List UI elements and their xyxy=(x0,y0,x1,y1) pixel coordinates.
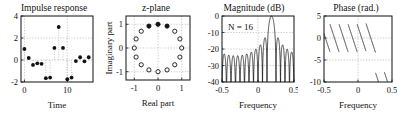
zero-marker xyxy=(178,55,182,59)
data-point xyxy=(83,59,87,63)
z-plane-chart: z-plane -101 -101 Real part Imaginary pa… xyxy=(100,0,198,116)
phase-trace xyxy=(324,34,330,52)
tick-label: -30 xyxy=(208,61,219,71)
panel-impulse-response: Impulse response -2024 010 Time xyxy=(0,0,100,116)
impulse-response-gridlines xyxy=(21,16,93,82)
data-point xyxy=(70,76,74,80)
zero-marker xyxy=(134,55,138,59)
zero-marker-highlighted xyxy=(165,24,169,28)
data-point xyxy=(61,46,65,50)
phase-title: Phase (rad.) xyxy=(333,3,378,14)
tick-label: 2 xyxy=(14,33,18,43)
panel-z-plane: z-plane -101 -101 Real part Imaginary pa… xyxy=(100,0,198,116)
tick-label: -1 xyxy=(131,83,138,93)
tick-label: 0 xyxy=(119,43,123,53)
z-plane-y-ticklabels: -101 xyxy=(116,19,129,76)
impulse-response-axes-frame xyxy=(21,16,93,82)
tick-label: 0 xyxy=(14,55,18,65)
phase-chart: Phase (rad.) -10-505 -0.500.5 Frequency xyxy=(298,0,397,116)
data-point xyxy=(44,76,48,80)
magnitude-xlabel: Frequency xyxy=(239,100,277,110)
data-point xyxy=(23,47,27,51)
tick-label: -5 xyxy=(314,55,321,65)
zero-marker xyxy=(173,29,177,33)
impulse-response-title: Impulse response xyxy=(21,3,87,13)
phase-trace xyxy=(366,23,376,52)
zero-marker-highlighted xyxy=(147,24,151,28)
tick-label: -2 xyxy=(11,77,18,87)
tick-label: 1 xyxy=(119,19,123,29)
zero-marker xyxy=(134,37,138,41)
panel-magnitude: Magnitude (dB) N = 16 -40-30-20-100 -0.5… xyxy=(198,0,298,116)
panel-phase: Phase (rad.) -10-505 -0.500.5 Frequency xyxy=(298,0,397,116)
tick-label: 1 xyxy=(180,83,184,93)
tick-label: 0 xyxy=(156,83,160,93)
data-point xyxy=(53,46,57,50)
tick-label: -0.5 xyxy=(317,85,330,95)
zero-marker xyxy=(180,46,184,50)
impulse-response-datapoints xyxy=(23,25,91,81)
zero-marker xyxy=(147,68,151,72)
z-plane-xlabel: Real part xyxy=(142,98,175,108)
zero-marker xyxy=(139,29,143,33)
zero-marker xyxy=(173,63,177,67)
z-plane-title: z-plane xyxy=(142,3,170,13)
phase-xlabel: Frequency xyxy=(339,100,377,110)
data-point xyxy=(40,62,44,66)
tick-label: -20 xyxy=(208,44,219,54)
zero-marker xyxy=(178,37,182,41)
data-point xyxy=(74,59,78,63)
tick-label: -1 xyxy=(116,67,123,77)
tick-label: 0 xyxy=(22,85,26,95)
tick-label: 0 xyxy=(317,33,321,43)
data-point xyxy=(87,55,91,59)
magnitude-annotation-N: N = 16 xyxy=(228,22,254,32)
figure-panel-row: Impulse response -2024 010 Time z-plane … xyxy=(0,0,397,116)
data-point xyxy=(48,76,52,80)
zero-marker-highlighted xyxy=(156,22,160,26)
phase-response-curve xyxy=(324,23,388,82)
phase-trace xyxy=(330,24,339,52)
tick-label: -0.5 xyxy=(215,85,228,95)
data-point xyxy=(27,56,31,60)
zero-marker xyxy=(156,70,160,74)
tick-label: 5 xyxy=(317,11,321,21)
tick-label: 4 xyxy=(14,11,19,21)
tick-label: 0 xyxy=(215,11,219,21)
phase-trace xyxy=(376,73,379,82)
tick-label: 0.5 xyxy=(289,85,298,95)
magnitude-title: Magnitude (dB) xyxy=(224,3,285,14)
tick-label: 0 xyxy=(356,85,360,95)
tick-label: 0 xyxy=(256,85,260,95)
z-plane-ylabel: Imaginary part xyxy=(104,21,114,75)
magnitude-chart: Magnitude (dB) N = 16 -40-30-20-100 -0.5… xyxy=(198,0,298,116)
tick-label: 0.5 xyxy=(387,85,397,95)
data-point xyxy=(57,25,61,29)
data-point xyxy=(35,61,39,65)
impulse-response-stems xyxy=(24,27,88,79)
data-point xyxy=(31,63,35,67)
phase-trace xyxy=(384,72,387,82)
zero-marker xyxy=(139,63,143,67)
zero-marker xyxy=(165,68,169,72)
data-point xyxy=(78,55,82,59)
impulse-response-chart: Impulse response -2024 010 Time xyxy=(0,0,100,116)
tick-label: -10 xyxy=(208,28,219,38)
zero-marker xyxy=(132,46,136,50)
impulse-response-y-ticklabels: -2024 xyxy=(11,11,24,87)
tick-label: 10 xyxy=(63,85,72,95)
impulse-response-xlabel: Time xyxy=(48,100,67,110)
